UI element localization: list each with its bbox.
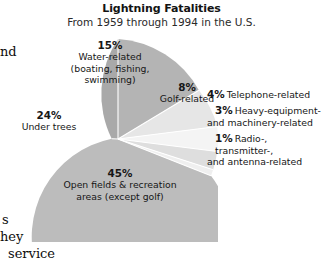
chart-title: Lightning Fatalities	[0, 2, 323, 15]
legend-percent-heavy-equipment-related: 3%	[215, 104, 233, 116]
legend-text-radio-antenna-line2: and antenna-related	[207, 156, 323, 167]
legend-text-heavy-equipment-line1: Heavy-equipment-	[235, 105, 321, 116]
legend-percent-telephone-related: 4%	[207, 88, 225, 100]
legend-item-heavy-equipment-related: 3%Heavy-equipment- and machinery-related	[207, 105, 323, 128]
slice-label-under-trees: 24% Under trees	[6, 110, 92, 133]
slice-label-open-fields: 45% Open fields & recreation areas (exce…	[40, 168, 200, 202]
slice-text-open-fields-line2: areas (except golf)	[76, 191, 163, 202]
legend-percent-radio-antenna-related: 1%	[215, 132, 233, 144]
legend-text-heavy-equipment-line2: and machinery-related	[207, 117, 323, 128]
legend-item-telephone-related: 4%Telephone-related	[207, 89, 323, 100]
body-text-fragment: nd	[0, 44, 17, 59]
slice-percent-under-trees: 24%	[37, 109, 62, 121]
slice-text-water-related-line2: (boating, fishing,	[71, 63, 150, 74]
chart-subtitle: From 1959 through 1994 in the U.S.	[0, 16, 323, 28]
slice-text-water-related-line3: swimming)	[84, 74, 135, 85]
slice-text-water-related-line1: Water-related	[78, 51, 141, 62]
slice-percent-golf-related: 8%	[178, 81, 196, 93]
slice-label-water-related: 15% Water-related (boating, fishing, swi…	[52, 40, 168, 86]
slice-percent-water-related: 15%	[98, 39, 123, 51]
legend-item-radio-antenna-related: 1%Radio-, transmitter-, and antenna-rela…	[207, 133, 323, 167]
chart-legend: 4%Telephone-related 3%Heavy-equipment- a…	[207, 89, 323, 172]
slice-text-open-fields-line1: Open fields & recreation	[63, 179, 176, 190]
body-text-fragment: service	[8, 246, 55, 261]
slice-text-under-trees-line1: Under trees	[22, 121, 77, 132]
slice-percent-open-fields: 45%	[108, 167, 133, 179]
legend-text-telephone-related: Telephone-related	[227, 89, 310, 100]
lightning-fatalities-figure: nd s hey service Lightning Fatalities Fr…	[0, 0, 323, 262]
body-text-fragment: s	[2, 212, 9, 227]
